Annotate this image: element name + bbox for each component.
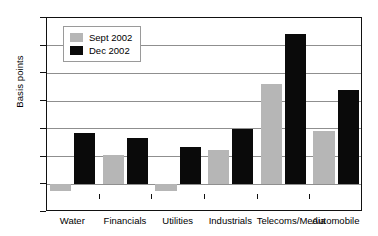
bar	[180, 147, 201, 184]
bar	[261, 84, 282, 184]
y-tick-mark	[40, 211, 46, 212]
bar	[103, 155, 124, 184]
bar-group	[152, 18, 205, 210]
bar	[50, 184, 71, 191]
x-axis-label: Financials	[99, 215, 152, 226]
x-tick-mark	[257, 194, 258, 199]
x-tick-mark	[99, 194, 100, 199]
x-axis-label: Industrials	[204, 215, 257, 226]
x-axis-label: Utilities	[151, 215, 204, 226]
x-tick-mark	[151, 194, 152, 199]
legend-label: Dec 2002	[89, 46, 130, 56]
bar	[208, 150, 229, 184]
bar	[127, 138, 148, 185]
x-tick-mark	[309, 194, 310, 199]
x-tick-mark	[204, 194, 205, 199]
bar-group	[205, 18, 258, 210]
bar	[313, 131, 334, 185]
legend-swatch-dec-2002	[70, 46, 83, 55]
legend-label: Sept 2002	[89, 33, 132, 43]
bar	[74, 133, 95, 184]
x-axis-label: Telecoms/Media	[257, 215, 310, 226]
x-axis-label: Water	[46, 215, 99, 226]
legend-item: Sept 2002	[70, 31, 132, 44]
chart-legend: Sept 2002 Dec 2002	[63, 26, 141, 62]
bar	[232, 129, 253, 184]
bar-group	[258, 18, 311, 210]
bar	[155, 184, 176, 191]
x-axis-label: Automobile	[309, 215, 362, 226]
y-axis-title: Basis points	[14, 37, 25, 127]
bar-chart: Basis points 300250200150100500−50 Sept …	[0, 0, 378, 236]
legend-item: Dec 2002	[70, 44, 132, 57]
bar-group	[310, 18, 363, 210]
plot-area: Sept 2002 Dec 2002	[46, 17, 362, 211]
bar	[285, 34, 306, 184]
bar	[338, 90, 359, 185]
legend-swatch-sept-2002	[70, 33, 83, 42]
